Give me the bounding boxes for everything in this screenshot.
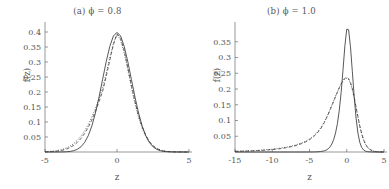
x-tick-label: -5 <box>41 156 49 165</box>
series-curve-dashed <box>45 34 189 152</box>
panel-a-plot: 0.050.10.150.20.250.30.350.4-505 <box>0 0 195 189</box>
y-tick-label: 0.25 <box>23 73 41 82</box>
series-curve-dotted <box>235 78 384 152</box>
series-curve-dashed <box>235 77 384 152</box>
y-tick-label: 0.3 <box>28 58 41 67</box>
y-tick-label: 0.3 <box>218 53 231 62</box>
x-tick-label: -10 <box>266 156 279 165</box>
y-tick-label: 0.35 <box>23 43 41 52</box>
y-tick-label: 0.15 <box>213 101 231 110</box>
y-tick-label: 0.25 <box>213 69 231 78</box>
x-tick-label: -5 <box>306 156 314 165</box>
y-tick-label: 0.2 <box>218 85 231 94</box>
y-tick-label: 0.2 <box>28 88 41 97</box>
figure-container: (a) ϕ = 0.8 f(z) z 0.050.10.150.20.250.3… <box>0 0 389 189</box>
y-tick-label: 0.35 <box>213 38 231 47</box>
y-tick-label: 0.1 <box>28 118 41 127</box>
series-curve-dotted <box>45 34 189 152</box>
series-curve-solid <box>45 32 189 152</box>
x-tick-label: 5 <box>381 156 386 165</box>
y-tick-label: 0.15 <box>23 103 41 112</box>
series-curve-solid <box>235 29 384 152</box>
y-tick-label: 0.4 <box>28 28 41 37</box>
y-tick-label: 0.1 <box>218 116 231 125</box>
y-tick-label: 0.05 <box>213 132 231 141</box>
x-tick-label: 0 <box>114 156 119 165</box>
x-tick-label: 5 <box>186 156 191 165</box>
x-tick-label: -15 <box>229 156 242 165</box>
chart-panel-a: (a) ϕ = 0.8 f(z) z 0.050.10.150.20.250.3… <box>0 0 195 189</box>
y-tick-label: 0.05 <box>23 133 41 142</box>
x-tick-label: 0 <box>344 156 349 165</box>
panel-b-plot: 0.050.10.150.20.250.30.35-15-10-505 <box>194 0 389 189</box>
chart-panel-b: (b) ϕ = 1.0 f(z) z 0.050.10.150.20.250.3… <box>194 0 389 189</box>
